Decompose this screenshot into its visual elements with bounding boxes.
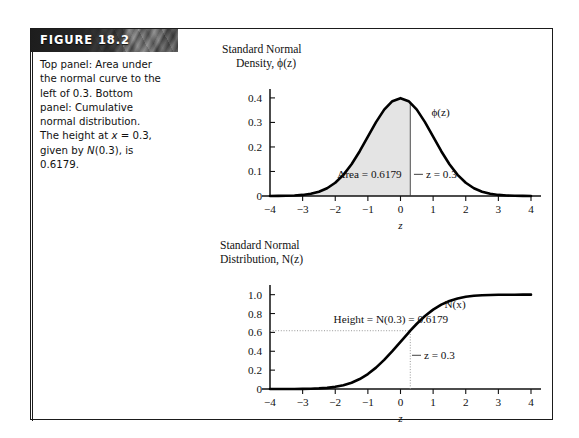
x-tick-label: 4	[528, 396, 534, 408]
x-tick-label: −2	[329, 396, 341, 408]
caption-line: normal distribution.	[40, 115, 186, 129]
x-tick-label: 3	[496, 203, 502, 215]
panel-title-line2: Distribution, N(z)	[220, 253, 303, 266]
area-annotation: Area = 0.6179	[337, 168, 402, 180]
x-tick-label: 1	[430, 203, 436, 215]
panel-title-line2: Density, ϕ(z)	[236, 57, 296, 70]
figure-number-label: FIGURE 18.2	[40, 33, 130, 47]
y-tick-label: 1.0	[248, 289, 262, 301]
panel-title-line1: Standard Normal	[220, 239, 300, 252]
marker-annotation: z = 0.3	[424, 349, 455, 361]
x-tick-label: 4	[528, 203, 534, 215]
x-tick-label: 0	[398, 396, 404, 408]
y-tick-label: 0.8	[248, 308, 262, 320]
standard-normal-density-svg: Standard NormalDensity, ϕ(z)−4−3−2−10123…	[186, 31, 552, 227]
standard-normal-density-title: Standard NormalDensity, ϕ(z)	[222, 43, 302, 70]
standard-normal-distribution-title: Standard NormalDistribution, N(z)	[220, 239, 303, 266]
x-axis-title: z	[397, 412, 403, 424]
y-tick-label: 0.4	[248, 345, 262, 357]
x-tick-label: −1	[362, 203, 374, 215]
y-tick-label: 0.2	[248, 141, 262, 153]
caption-line: The height at x = 0.3,	[40, 129, 186, 143]
caption-line: Top panel: Area under	[40, 58, 186, 72]
y-tick-label: 0	[256, 190, 262, 202]
caption-line: left of 0.3. Bottom	[40, 87, 186, 101]
figure-frame: FIGURE 18.2 Top panel: Area underthe nor…	[30, 28, 553, 420]
caption-line: panel: Cumulative	[40, 101, 186, 115]
caption-line: the normal curve to the	[40, 72, 186, 86]
y-tick-label: 0.4	[248, 92, 262, 104]
x-tick-label: −4	[264, 203, 276, 215]
chart-panel-density: Standard NormalDensity, ϕ(z)−4−3−2−10123…	[186, 31, 552, 227]
x-tick-label: 1	[430, 396, 436, 408]
x-tick-label: −3	[297, 203, 309, 215]
x-tick-label: −1	[362, 396, 374, 408]
standard-normal-distribution-axes: −4−3−2−101234z00.20.40.60.81.0	[248, 285, 541, 424]
x-tick-label: 2	[463, 203, 469, 215]
standard-normal-distribution-curve	[270, 295, 531, 389]
x-tick-label: −3	[297, 396, 309, 408]
y-tick-label: 0.2	[248, 364, 262, 376]
x-tick-label: −4	[264, 396, 276, 408]
y-tick-label: 0.1	[248, 165, 262, 177]
curve-label: N(x)	[445, 298, 466, 311]
curve-label: ϕ(z)	[431, 106, 450, 119]
y-tick-label: 0.6	[248, 326, 262, 338]
caption-line: given by N(0.3), is	[40, 144, 186, 158]
figure-caption: Top panel: Area underthe normal curve to…	[40, 58, 186, 172]
y-tick-label: 0.3	[248, 116, 262, 128]
x-tick-label: 0	[398, 203, 404, 215]
caption-divider	[32, 52, 33, 421]
x-tick-label: −2	[329, 203, 341, 215]
figure-banner: FIGURE 18.2	[31, 29, 178, 52]
height-annotation: Height = N(0.3) = 0.6179	[334, 313, 449, 326]
caption-line: 0.6179.	[40, 158, 186, 172]
x-tick-label: 2	[463, 396, 469, 408]
standard-normal-distribution-svg: Standard NormalDistribution, N(z)−4−3−2−…	[186, 227, 552, 419]
marker-annotation: z = 0.3	[426, 168, 457, 180]
y-tick-label: 0	[256, 383, 262, 395]
panel-title-line1: Standard Normal	[222, 43, 302, 56]
chart-panel-distribution: Standard NormalDistribution, N(z)−4−3−2−…	[186, 227, 552, 419]
x-tick-label: 3	[496, 396, 502, 408]
shaded-area	[270, 98, 410, 196]
